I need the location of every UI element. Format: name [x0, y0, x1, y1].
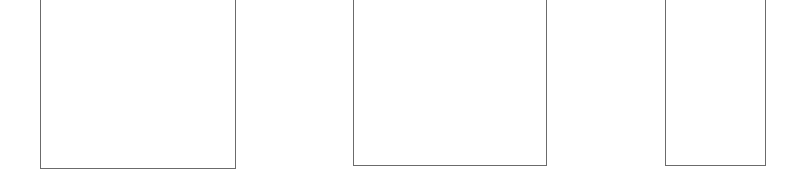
- open-top-container-1: [40, 0, 236, 169]
- open-top-container-3: [665, 0, 766, 166]
- open-top-container-2: [353, 0, 547, 166]
